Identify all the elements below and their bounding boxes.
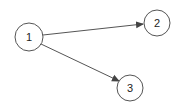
edge-1-to-2 (43, 24, 143, 35)
node-3-label: 3 (127, 82, 133, 94)
graph-canvas: 1 2 3 (0, 0, 183, 103)
node-2-label: 2 (154, 17, 160, 29)
node-3: 3 (117, 75, 143, 101)
edge-1-to-3 (41, 44, 119, 81)
node-1: 1 (15, 23, 43, 51)
node-1-label: 1 (26, 31, 32, 43)
node-2: 2 (144, 10, 170, 36)
